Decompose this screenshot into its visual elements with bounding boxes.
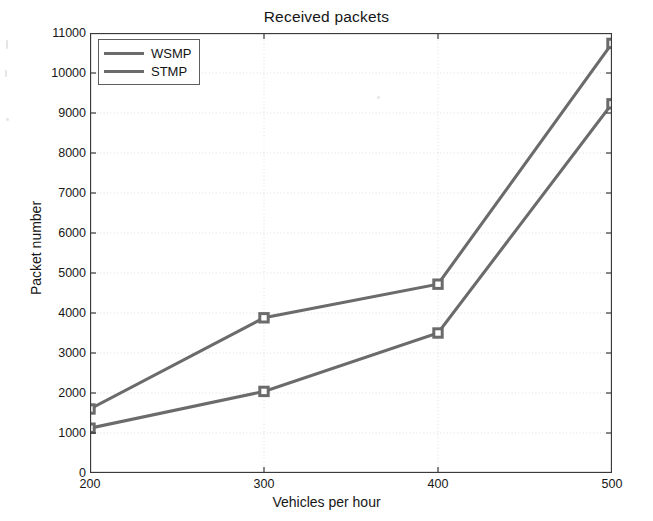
y-tick-label: 3000 [40, 346, 86, 360]
legend-item-label: WSMP [151, 47, 191, 60]
legend-item-label: STMP [151, 65, 187, 78]
scan-speck [5, 70, 7, 77]
y-tick-label: 9000 [40, 106, 86, 120]
x-tick-label: 200 [60, 477, 120, 491]
plot-area [90, 33, 612, 473]
y-tick-label: 7000 [40, 186, 86, 200]
x-tick-label: 300 [234, 477, 294, 491]
chart-figure: Received packets Packet number Vehicles … [0, 0, 653, 521]
y-tick-label: 11000 [40, 26, 86, 40]
series-line-wsmp [90, 43, 612, 409]
scan-speck [377, 96, 380, 99]
data-point-marker [260, 387, 268, 395]
legend-item-stmp[interactable]: STMP [104, 62, 191, 80]
legend: WSMPSTMP [98, 39, 200, 85]
x-axis-tick-labels: 200300400500 [90, 477, 612, 497]
y-tick-label: 6000 [40, 226, 86, 240]
y-tick-label: 2000 [40, 386, 86, 400]
axis-box [91, 34, 612, 473]
y-tick-label: 8000 [40, 146, 86, 160]
scan-speck [6, 118, 9, 121]
chart-title: Received packets [0, 8, 653, 26]
axis-frame [91, 34, 612, 473]
legend-line-swatch [104, 70, 144, 73]
y-tick-label: 10000 [40, 66, 86, 80]
x-tick-label: 500 [582, 477, 642, 491]
data-series-layer [90, 39, 612, 432]
legend-line-swatch [104, 52, 144, 55]
scan-speck [6, 40, 8, 49]
data-point-marker [260, 314, 268, 322]
y-axis-tick-labels: 0100020003000400050006000700080009000100… [36, 33, 86, 473]
plot-svg [90, 33, 612, 473]
data-point-marker [434, 280, 442, 288]
axis-ticks [90, 33, 612, 473]
x-tick-label: 400 [408, 477, 468, 491]
gridlines [90, 33, 612, 473]
legend-item-wsmp[interactable]: WSMP [104, 44, 191, 62]
y-tick-label: 5000 [40, 266, 86, 280]
data-point-marker [434, 329, 442, 337]
y-tick-label: 4000 [40, 306, 86, 320]
y-tick-label: 1000 [40, 426, 86, 440]
